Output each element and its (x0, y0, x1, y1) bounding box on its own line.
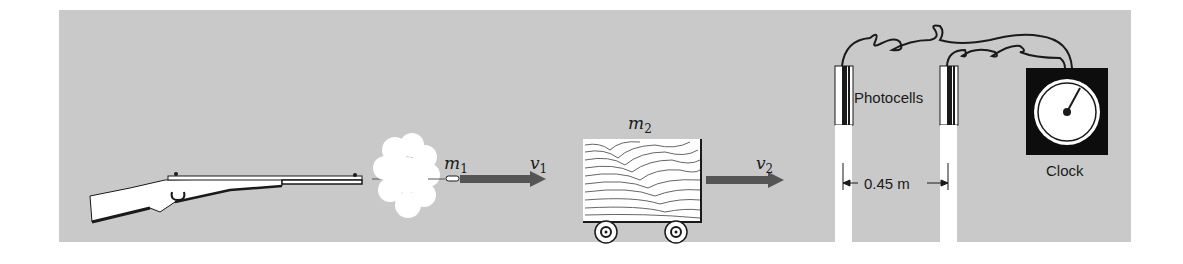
bullet-mass-label: m1 (444, 153, 468, 176)
wires-icon (842, 26, 1072, 69)
clock-label: Clock (1046, 162, 1084, 179)
smoke-cloud-icon (373, 133, 440, 218)
block-mass-label: m2 (628, 113, 652, 136)
diagram-graphics (0, 0, 1183, 264)
photocell-left-icon (835, 66, 853, 243)
cart-wheels-icon (595, 221, 687, 243)
bullet-icon (446, 176, 459, 181)
distance-label: 0.45 m (864, 175, 910, 192)
rifle-icon (90, 172, 362, 222)
photocell-right-icon (940, 66, 958, 243)
wooden-block-icon (583, 139, 701, 222)
photocells-label: Photocells (854, 89, 923, 106)
block-velocity-label: v2 (756, 153, 773, 176)
clock-icon (1026, 68, 1108, 155)
bullet-velocity-label: v1 (530, 153, 547, 176)
